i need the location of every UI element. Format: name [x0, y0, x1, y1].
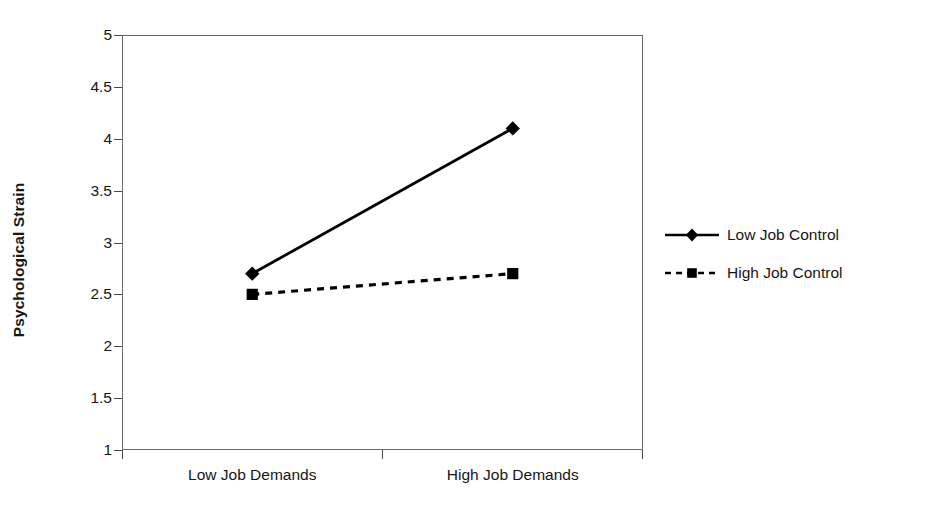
- square-marker-icon: [664, 264, 720, 282]
- y-axis-tick-mark: [114, 398, 122, 399]
- y-axis-tick-mark: [114, 450, 122, 451]
- series-line-square: [252, 274, 513, 295]
- y-axis-tick-mark: [114, 243, 122, 244]
- y-axis-tick-label-group: 11.522.533.544.55: [60, 35, 112, 450]
- y-axis-title: Psychological Strain: [1, 53, 37, 468]
- data-series-layer: [122, 35, 643, 450]
- y-axis-tick-label: 3.5: [60, 182, 112, 200]
- legend-item-high-job-control[interactable]: High Job Control: [664, 254, 919, 292]
- legend-label-high-job-control: High Job Control: [727, 265, 842, 281]
- y-axis-tick-label: 4.5: [60, 78, 112, 96]
- y-axis-tick-mark: [114, 294, 122, 295]
- x-axis-tick-left-end: [122, 450, 123, 459]
- x-axis-tick-center: [382, 450, 383, 459]
- y-axis-tick-mark: [114, 346, 122, 347]
- figure-container: Psychological Strain 11.522.533.544.55 L…: [0, 0, 933, 523]
- legend: Low Job Control High Job Control: [664, 216, 919, 292]
- y-axis-tick-label: 1: [60, 441, 112, 459]
- y-axis-tick-mark: [114, 139, 122, 140]
- y-axis-tick-label: 3: [60, 234, 112, 252]
- y-axis-tick-mark: [114, 87, 122, 88]
- y-axis-tick-label: 2.5: [60, 285, 112, 303]
- y-axis-tick-label: 4: [60, 130, 112, 148]
- legend-item-low-job-control[interactable]: Low Job Control: [664, 216, 919, 254]
- legend-label-low-job-control: Low Job Control: [727, 227, 839, 243]
- diamond-marker-icon: [664, 226, 720, 244]
- data-point-marker: [506, 121, 520, 135]
- x-axis-tick-label: Low Job Demands: [188, 466, 316, 484]
- x-axis-tick-right-end: [642, 450, 643, 459]
- y-axis-tick-mark: [114, 191, 122, 192]
- data-point-marker: [247, 289, 258, 300]
- y-axis-tick-mark: [114, 35, 122, 36]
- series-line-diamond: [252, 128, 513, 273]
- y-axis-tick-label: 5: [60, 26, 112, 44]
- data-point-marker: [245, 266, 259, 280]
- y-axis-tick-label: 2: [60, 337, 112, 355]
- y-axis-tick-label: 1.5: [60, 389, 112, 407]
- x-axis-tick-label: High Job Demands: [447, 466, 579, 484]
- data-point-marker: [507, 268, 518, 279]
